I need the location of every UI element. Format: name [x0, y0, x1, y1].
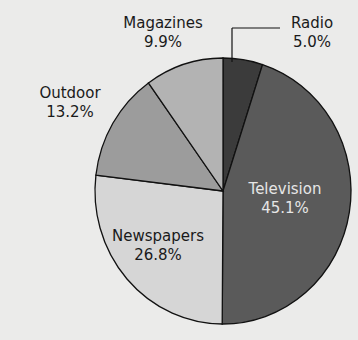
slice-value: 26.8% — [108, 246, 208, 265]
label-radio: Radio 5.0% — [282, 14, 342, 52]
slice-name: Magazines — [118, 14, 208, 33]
slice-name: Newspapers — [108, 227, 208, 246]
slice-value: 45.1% — [240, 199, 330, 218]
slice-value: 9.9% — [118, 33, 208, 52]
slice-name: Outdoor — [30, 84, 110, 103]
slice-value: 13.2% — [30, 103, 110, 122]
slice-name: Radio — [282, 14, 342, 33]
label-newspapers: Newspapers 26.8% — [108, 227, 208, 265]
slice-name: Television — [240, 180, 330, 199]
slice-value: 5.0% — [282, 33, 342, 52]
label-outdoor: Outdoor 13.2% — [30, 84, 110, 122]
label-magazines: Magazines 9.9% — [118, 14, 208, 52]
label-television: Television 45.1% — [240, 180, 330, 218]
